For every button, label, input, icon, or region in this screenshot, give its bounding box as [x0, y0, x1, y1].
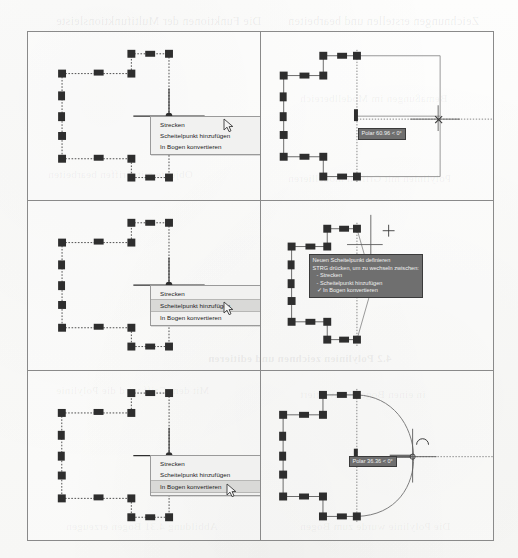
pickbox-x-icon	[435, 116, 442, 123]
panel-middle-right: Neuen Scheitelpunkt definieren STRG drüc…	[261, 201, 494, 370]
menu-item-in-bogen-konvertieren[interactable]: In Bogen konvertieren	[151, 141, 261, 152]
tooltip-option-scheitelpunkt: - Scheitelpunkt hinzufügen	[313, 280, 419, 287]
panel-top-left: Strecken Scheitelpunkt hinzufügen In Bog…	[28, 32, 261, 201]
context-menu-middle-left[interactable]: Strecken Scheitelpunkt hinzufügen In Bog…	[150, 285, 261, 326]
mouse-pointer-icon	[223, 118, 234, 133]
menu-item-scheitelpunkt-hinzufuegen[interactable]: Scheitelpunkt hinzufügen	[151, 130, 261, 141]
tooltip-polar-bottom-right: Polar 36.36 < 0°	[349, 456, 397, 468]
panel-bottom-left: Strecken Scheitelpunkt hinzufügen In Bog…	[28, 371, 261, 540]
cad-canvas-top-right	[261, 32, 494, 200]
crosshair-cursor	[410, 105, 460, 131]
mouse-pointer-icon	[226, 483, 237, 498]
tooltip-polar-top-right: Polar 60.96 < 0°	[358, 128, 406, 140]
panel-bottom-right: Polar 36.36 < 0°	[261, 371, 494, 540]
context-menu-top-left[interactable]: Strecken Scheitelpunkt hinzufügen In Bog…	[150, 116, 261, 155]
tooltip-option-bogen: ✓ In Bogen konvertieren	[313, 287, 419, 294]
tooltip-option-strecken: - Strecken	[313, 272, 419, 279]
grip-squares	[279, 52, 360, 181]
panel-top-right: Polar 60.96 < 0°	[261, 32, 494, 201]
move-cursor-icon	[382, 225, 394, 237]
stretch-preview-rect	[356, 56, 439, 177]
mouse-pointer-icon	[223, 301, 234, 316]
tooltip-title: Neuen Scheitelpunkt definieren	[313, 257, 419, 264]
context-menu-bottom-left[interactable]: Strecken Scheitelpunkt hinzufügen In Bog…	[150, 455, 261, 496]
menu-item-strecken[interactable]: Strecken	[151, 119, 261, 130]
menu-item-strecken[interactable]: Strecken	[151, 288, 261, 299]
menu-item-scheitelpunkt-hinzufuegen[interactable]: Scheitelpunkt hinzufügen	[151, 469, 261, 480]
menu-item-scheitelpunkt-hinzufuegen[interactable]: Scheitelpunkt hinzufügen	[151, 299, 261, 312]
tooltip-hint: STRG drücken, um zu wechseln zwischen:	[313, 265, 419, 272]
menu-item-in-bogen-konvertieren[interactable]: In Bogen konvertieren	[151, 480, 261, 493]
panel-middle-left: Strecken Scheitelpunkt hinzufügen In Bog…	[28, 201, 261, 370]
figure-grid: Strecken Scheitelpunkt hinzufügen In Bog…	[27, 31, 494, 541]
tooltip-new-vertex: Neuen Scheitelpunkt definieren STRG drüc…	[309, 254, 423, 298]
menu-item-in-bogen-konvertieren[interactable]: In Bogen konvertieren	[151, 312, 261, 323]
menu-item-strecken[interactable]: Strecken	[151, 458, 261, 469]
arc-direction-icon	[416, 438, 428, 444]
